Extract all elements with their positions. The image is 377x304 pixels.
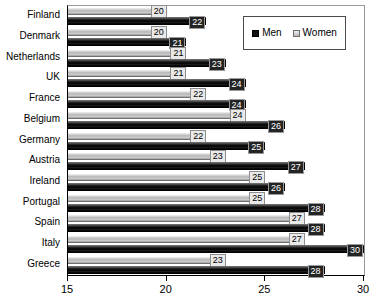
x-axis: 15202530 [67,276,365,304]
bar-men-france [68,100,246,108]
x-tick-25 [264,276,265,281]
bar-women-italy [68,235,305,243]
bar-men-ireland [68,183,285,191]
bar-chart: FinlandDenmarkNetherlandsUKFranceBelgium… [0,0,377,304]
x-tick-label-15: 15 [52,283,82,295]
category-label-ireland: Ireland [0,176,60,186]
bar-women-netherlands [68,49,186,57]
category-label-belgium: Belgium [0,114,60,124]
category-label-denmark: Denmark [0,31,60,41]
category-label-spain: Spain [0,217,60,227]
bar-men-uk [68,79,246,87]
bar-men-spain [68,224,325,232]
bar-women-greece [68,256,226,264]
bar-women-spain [68,214,305,222]
chart-legend: MenWomen [243,16,346,50]
bar-men-germany [68,142,265,150]
data-label-men-belgium: 26 [268,120,284,133]
data-label-men-uk: 24 [229,78,245,91]
legend-item-men[interactable]: Men [252,28,281,38]
category-label-uk: UK [0,72,60,82]
x-tick-label-25: 25 [249,283,279,295]
data-label-men-spain: 28 [308,223,324,236]
x-tick-label-30: 30 [348,283,377,295]
category-label-austria: Austria [0,155,60,165]
men-swatch-icon [252,30,259,37]
bar-men-greece [68,266,325,274]
category-label-germany: Germany [0,135,60,145]
bar-women-uk [68,69,186,77]
category-label-italy: Italy [0,238,60,248]
category-label-portugal: Portugal [0,197,60,207]
data-label-men-germany: 25 [248,141,264,154]
category-label-netherlands: Netherlands [0,52,60,62]
bar-women-germany [68,132,206,140]
bar-women-belgium [68,111,246,119]
bar-women-portugal [68,194,265,202]
legend-label: Women [303,28,337,38]
category-label-france: France [0,93,60,103]
data-label-men-portugal: 28 [308,203,324,216]
x-tick-30 [363,276,364,281]
bar-men-belgium [68,121,285,129]
data-label-men-austria: 27 [288,161,304,174]
bar-men-portugal [68,204,325,212]
women-swatch-icon [293,30,300,37]
x-tick-20 [166,276,167,281]
category-axis: FinlandDenmarkNetherlandsUKFranceBelgium… [0,5,64,276]
data-label-men-italy: 30 [347,244,363,257]
bar-men-italy [68,245,364,253]
category-label-finland: Finland [0,10,60,20]
data-label-men-finland: 22 [189,16,205,29]
bar-men-netherlands [68,59,226,67]
category-label-greece: Greece [0,259,60,269]
data-label-men-ireland: 26 [268,182,284,195]
x-tick-label-20: 20 [151,283,181,295]
legend-item-women[interactable]: Women [293,28,337,38]
data-label-men-netherlands: 23 [209,58,225,71]
x-tick-15 [67,276,68,281]
bar-men-austria [68,162,305,170]
bar-women-ireland [68,173,265,181]
bar-women-austria [68,152,226,160]
bar-women-france [68,90,206,98]
bar-men-finland [68,17,206,25]
legend-label: Men [262,28,281,38]
